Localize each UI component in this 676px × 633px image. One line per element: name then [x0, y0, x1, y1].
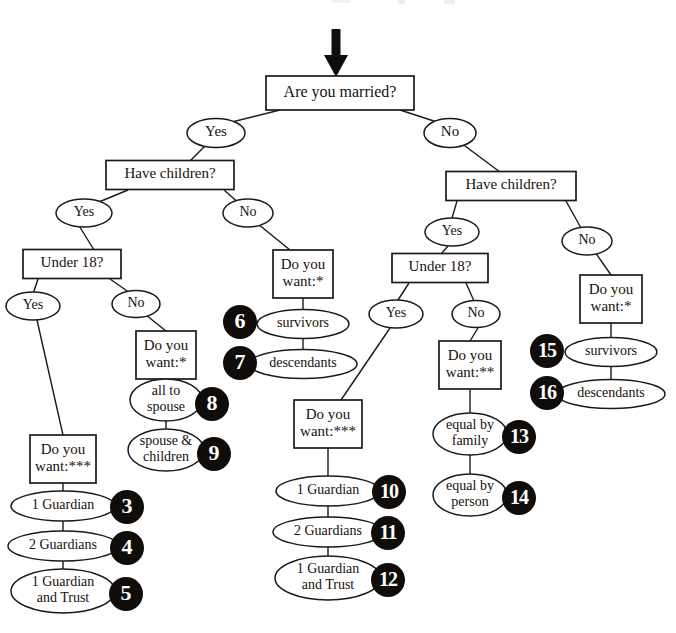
node-label: and Trust — [37, 590, 90, 605]
node-label: family — [452, 433, 489, 448]
node-nu-no[interactable]: No — [452, 301, 500, 328]
node-label: want:*** — [300, 423, 356, 439]
edge-n-under18-to-nu-yes — [398, 283, 409, 300]
node-label: Under 18? — [41, 254, 104, 270]
node-label: want:*** — [35, 458, 91, 474]
node-m-under18[interactable]: Under 18? — [23, 250, 121, 279]
outcome-badge-3[interactable]: 3 — [110, 490, 144, 524]
badge-number: 5 — [121, 580, 132, 605]
badge-number: 14 — [510, 486, 529, 508]
outcome-badge-6[interactable]: 6 — [223, 305, 257, 339]
edge-nu-no-to-n-want2 — [470, 328, 478, 341]
outcome-badge-9[interactable]: 9 — [197, 437, 231, 471]
node-label: Do you — [306, 406, 351, 422]
node-m-no[interactable]: No — [424, 119, 476, 148]
node-nc-no[interactable]: No — [562, 227, 612, 255]
node-label: descendants — [577, 385, 645, 400]
node-survivors1[interactable]: survivors — [257, 310, 349, 339]
outcome-badge-4[interactable]: 4 — [110, 531, 144, 565]
outcome-badge-14[interactable]: 14 — [502, 481, 536, 515]
badge-number: 13 — [510, 425, 529, 447]
outcome-badge-11[interactable]: 11 — [371, 516, 405, 550]
node-label: want:** — [446, 364, 494, 380]
outcome-badge-5[interactable]: 5 — [109, 577, 143, 611]
node-nu-yes[interactable]: Yes — [369, 300, 423, 328]
badge-number: 3 — [122, 493, 133, 518]
outcome-badge-8[interactable]: 8 — [195, 387, 229, 421]
node-label: Do you — [144, 337, 189, 353]
node-n-want3[interactable]: Do youwant:*** — [294, 400, 362, 448]
node-label: 1 Guardian — [32, 574, 95, 589]
node-label: survivors — [277, 315, 329, 330]
node-equal-person[interactable]: equal byperson — [433, 474, 507, 516]
badge-number: 6 — [235, 308, 246, 333]
node-descendants1[interactable]: descendants — [249, 350, 357, 379]
edge-nc-no-to-n-want1 — [595, 252, 611, 275]
node-label: spouse & — [140, 433, 193, 448]
badge-number: 7 — [235, 349, 246, 374]
node-label: equal by — [446, 478, 494, 493]
node-label: Have children? — [465, 176, 557, 192]
node-equal-family[interactable]: equal byfamily — [433, 413, 507, 455]
node-mu-no[interactable]: No — [112, 291, 160, 318]
node-spouse-children[interactable]: spouse &children — [128, 429, 204, 471]
node-label: want:* — [591, 298, 632, 314]
node-mu-yes[interactable]: Yes — [6, 292, 60, 320]
edge-n-under18-to-nu-no — [466, 283, 474, 301]
badge-number: 9 — [209, 440, 220, 465]
node-n-want1[interactable]: Do youwant:* — [580, 275, 642, 323]
outcome-badge-15[interactable]: 15 — [530, 334, 564, 368]
node-g5[interactable]: 2 Guardians — [273, 517, 383, 547]
outcome-badge-7[interactable]: 7 — [223, 346, 257, 380]
outcome-badge-10[interactable]: 10 — [372, 475, 406, 509]
edge-nm-children-to-nc-yes — [452, 201, 457, 218]
node-label: 1 Guardian — [297, 561, 360, 576]
node-label: 1 Guardian — [297, 482, 360, 497]
node-g2[interactable]: 2 Guardians — [8, 531, 118, 561]
edge-mc-no-to-nm-want1 — [258, 224, 290, 250]
node-survivors2[interactable]: survivors — [565, 338, 657, 367]
node-nm-want1[interactable]: Do youwant:* — [273, 250, 333, 298]
node-nm-children[interactable]: Have children? — [446, 172, 576, 201]
node-n-under18[interactable]: Under 18? — [392, 254, 488, 283]
node-label: Do you — [589, 281, 634, 297]
node-label: No — [578, 232, 595, 247]
node-label: and Trust — [302, 577, 355, 592]
node-descendants2[interactable]: descendants — [557, 380, 665, 409]
outcome-badge-16[interactable]: 16 — [530, 376, 564, 410]
badge-number: 16 — [538, 381, 557, 403]
node-label: Under 18? — [409, 258, 472, 274]
entry-arrow — [324, 29, 348, 77]
edge-nm-children-to-nc-no — [566, 201, 581, 228]
edge-mu-no-to-m-want1 — [146, 315, 166, 331]
node-label: equal by — [446, 417, 494, 432]
flowchart-canvas: Are you married?YesNoHave children?YesNo… — [0, 0, 676, 633]
node-mc-yes[interactable]: Yes — [56, 199, 112, 227]
node-label: children — [143, 449, 189, 464]
node-n-want2[interactable]: Do youwant:** — [439, 341, 501, 389]
outcome-badge-12[interactable]: 12 — [371, 563, 405, 597]
node-g3[interactable]: 1 Guardianand Trust — [11, 569, 115, 613]
badge-number: 11 — [380, 521, 397, 543]
edge-m-no-to-nm-children — [461, 143, 500, 172]
node-root[interactable]: Are you married? — [266, 76, 414, 110]
node-g6[interactable]: 1 Guardianand Trust — [275, 556, 381, 600]
badge-number: 15 — [538, 339, 557, 361]
node-label: 1 Guardian — [32, 497, 95, 512]
node-m-want1[interactable]: Do youwant:* — [136, 331, 196, 379]
edge-mc-yes-to-m-under18 — [78, 224, 94, 250]
badge-number: 12 — [379, 568, 398, 590]
node-label: 2 Guardians — [29, 537, 97, 552]
node-label: Yes — [23, 297, 43, 312]
node-label: 2 Guardians — [294, 523, 362, 538]
node-nc-yes[interactable]: Yes — [425, 218, 479, 246]
node-all-to-spouse[interactable]: all tospouse — [130, 379, 202, 421]
node-m-want3[interactable]: Do youwant:*** — [30, 435, 96, 483]
node-m-yes[interactable]: Yes — [187, 119, 245, 148]
node-label: Have children? — [124, 165, 216, 181]
outcome-badge-13[interactable]: 13 — [502, 420, 536, 454]
node-g1[interactable]: 1 Guardian — [11, 491, 115, 521]
node-mc-no[interactable]: No — [223, 199, 273, 227]
node-m-children[interactable]: Have children? — [106, 161, 234, 190]
node-g4[interactable]: 1 Guardian — [276, 476, 380, 506]
